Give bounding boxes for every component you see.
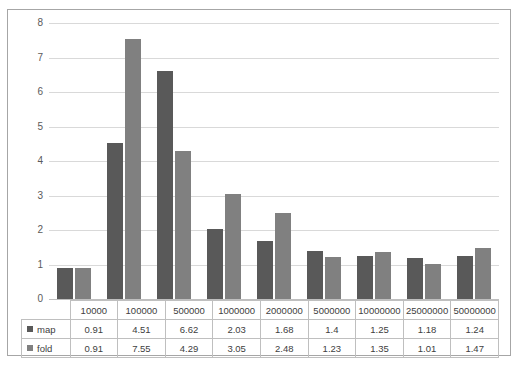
legend-label-map: map xyxy=(37,324,55,335)
bar-group-10000000 xyxy=(349,23,399,299)
bar-fold-10000 xyxy=(75,268,91,299)
table-header-10000: 10000 xyxy=(70,301,118,320)
bar-map-5000000 xyxy=(307,251,323,299)
table-header-25000000: 25000000 xyxy=(403,301,451,320)
bar-group-1000000 xyxy=(199,23,249,299)
table-cell-map-5000000: 1.4 xyxy=(308,320,356,339)
table-cell-map-100000: 4.51 xyxy=(118,320,166,339)
bar-fold-25000000 xyxy=(425,264,441,299)
table-header-10000000: 10000000 xyxy=(356,301,404,320)
table-header-1000000: 1000000 xyxy=(213,301,261,320)
table-cell-map-10000: 0.91 xyxy=(70,320,118,339)
bar-fold-500000 xyxy=(175,151,191,299)
bar-group-10000 xyxy=(49,23,99,299)
bar-group-25000000 xyxy=(399,23,449,299)
table-header-5000000: 5000000 xyxy=(308,301,356,320)
table-cell-fold-500000: 4.29 xyxy=(165,339,213,358)
y-axis-tick-7: 7 xyxy=(37,53,43,63)
table-cell-map-10000000: 1.25 xyxy=(356,320,404,339)
table-row-categories: 1000010000050000010000002000000500000010… xyxy=(22,301,499,320)
y-axis-tick-1: 1 xyxy=(37,260,43,270)
legend-entry-fold: fold xyxy=(22,339,71,358)
bar-group-2000000 xyxy=(249,23,299,299)
bar-fold-10000000 xyxy=(375,252,391,299)
bar-fold-5000000 xyxy=(325,257,341,299)
table-cell-fold-100000: 7.55 xyxy=(118,339,166,358)
bar-map-25000000 xyxy=(407,258,423,299)
legend-entry-map: map xyxy=(22,320,71,339)
bar-group-500000 xyxy=(149,23,199,299)
table-cell-map-50000000: 1.24 xyxy=(451,320,499,339)
table-cell-fold-1000000: 3.05 xyxy=(213,339,261,358)
table-cell-map-25000000: 1.18 xyxy=(403,320,451,339)
y-axis-tick-8: 8 xyxy=(37,18,43,28)
table-header-50000000: 50000000 xyxy=(451,301,499,320)
y-axis-tick-2: 2 xyxy=(37,225,43,235)
bar-map-2000000 xyxy=(257,241,273,299)
legend-swatch-fold-icon xyxy=(27,345,33,351)
table-row-map: map0.914.516.622.031.681.41.251.181.24 xyxy=(22,320,499,339)
bar-group-50000000 xyxy=(449,23,499,299)
bar-series-layer xyxy=(49,23,499,299)
y-axis-tick-3: 3 xyxy=(37,191,43,201)
table-cell-fold-25000000: 1.01 xyxy=(403,339,451,358)
table-header-100000: 100000 xyxy=(118,301,166,320)
y-axis-tick-4: 4 xyxy=(37,156,43,166)
table-cell-fold-50000000: 1.47 xyxy=(451,339,499,358)
table-row-fold: fold0.917.554.293.052.481.231.351.011.47 xyxy=(22,339,499,358)
y-axis-tick-5: 5 xyxy=(37,122,43,132)
bar-map-1000000 xyxy=(207,229,223,299)
chart-frame: 876543210 100001000005000001000000200000… xyxy=(7,9,511,356)
y-axis-tick-6: 6 xyxy=(37,87,43,97)
table-cell-fold-10000: 0.91 xyxy=(70,339,118,358)
table-corner-spacer xyxy=(22,301,71,320)
table-cell-fold-5000000: 1.23 xyxy=(308,339,356,358)
bar-fold-100000 xyxy=(125,39,141,299)
table-header-2000000: 2000000 xyxy=(260,301,308,320)
bar-fold-2000000 xyxy=(275,213,291,299)
table-cell-map-500000: 6.62 xyxy=(165,320,213,339)
table-cell-map-2000000: 1.68 xyxy=(260,320,308,339)
bar-group-5000000 xyxy=(299,23,349,299)
legend-label-fold: fold xyxy=(37,343,52,354)
bar-fold-1000000 xyxy=(225,194,241,299)
bar-fold-50000000 xyxy=(475,248,491,299)
table-cell-map-1000000: 2.03 xyxy=(213,320,261,339)
table-cell-fold-10000000: 1.35 xyxy=(356,339,404,358)
plot-area: 876543210 xyxy=(49,23,499,299)
chart-data-table: 1000010000050000010000002000000500000010… xyxy=(21,300,499,358)
legend-swatch-map-icon xyxy=(27,326,33,332)
bar-map-10000 xyxy=(57,268,73,299)
bar-map-100000 xyxy=(107,143,123,299)
bar-group-100000 xyxy=(99,23,149,299)
bar-map-10000000 xyxy=(357,256,373,299)
bar-map-50000000 xyxy=(457,256,473,299)
table-header-500000: 500000 xyxy=(165,301,213,320)
bar-map-500000 xyxy=(157,71,173,299)
table-cell-fold-2000000: 2.48 xyxy=(260,339,308,358)
